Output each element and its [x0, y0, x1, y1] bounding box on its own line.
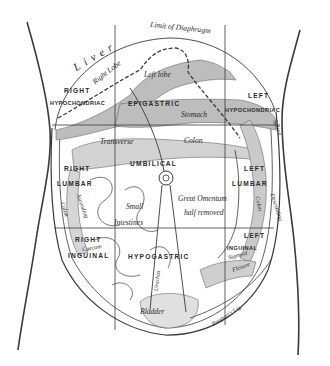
label-urachus: Urachus — [153, 269, 161, 291]
left-flank-outline — [18, 22, 50, 350]
label-right-inguinal-1: RIGHT — [75, 236, 102, 243]
label-half-removed: half removed — [184, 208, 224, 217]
label-right-lumbar-2: LUMBAR — [57, 180, 93, 187]
label-left-lobe: Left lobe — [143, 70, 171, 79]
label-limit-of-diaphragm: Limit of Diaphragm — [149, 20, 212, 35]
label-epigastric: EPIGASTRIC — [128, 100, 180, 107]
label-pouparts-lig: Poupart's Lig. — [210, 304, 243, 328]
label-left-hypochondriac-1: LEFT — [248, 92, 269, 99]
right-flank-outline — [282, 30, 300, 355]
label-right-hypochondriac-2: HYPOCHONDRIAC — [50, 100, 105, 106]
label-left-hypochondriac-2: HYPOCHONDRIAC — [225, 107, 280, 113]
label-left-lumbar-1: LEFT — [244, 165, 265, 172]
umbilicus — [159, 171, 173, 185]
urachus-line-b — [170, 185, 186, 312]
label-right-inguinal-2: INGUINAL — [68, 252, 109, 259]
label-right-lumbar-1: RIGHT — [64, 165, 91, 172]
label-small: Small — [126, 202, 143, 211]
label-left-inguinal-1: LEFT — [244, 232, 265, 239]
label-stomach: Stomach — [181, 110, 207, 119]
abdominal-regions-diagram: Limit of Diaphragm Liver Right Lobe Left… — [0, 0, 330, 366]
label-left-lumbar-2: LUMBAR — [232, 180, 268, 187]
label-great-omentum: Great Omentum — [178, 194, 227, 203]
label-transverse: Transverse — [100, 137, 134, 146]
label-colon-transverse: Colon — [184, 136, 203, 145]
label-intestines: Intestines — [113, 218, 143, 227]
label-right-hypochondriac-1: RIGHT — [64, 87, 91, 94]
descending-colon-band — [240, 120, 266, 262]
label-bladder: Bladder — [140, 307, 165, 316]
label-hypogastric: HYPOGASTRIC — [128, 253, 190, 260]
label-umbilical: UMBILICAL — [130, 160, 177, 167]
great-omentum-edge — [218, 150, 239, 258]
